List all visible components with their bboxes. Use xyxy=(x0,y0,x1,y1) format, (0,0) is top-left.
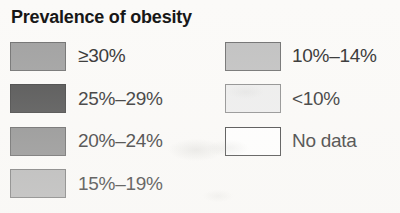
legend-item-label: 15%–19% xyxy=(78,173,163,195)
legend-item: 20%–24% xyxy=(10,126,163,156)
legend-item-label: <10% xyxy=(292,88,340,110)
legend-item: ≥30% xyxy=(10,41,163,71)
legend-item: 15%–19% xyxy=(10,169,163,199)
legend-item-label: 10%–14% xyxy=(292,45,377,67)
color-swatch xyxy=(225,42,281,71)
color-swatch xyxy=(10,169,66,198)
color-swatch xyxy=(225,127,281,156)
legend-title: Prevalence of obesity xyxy=(11,7,192,28)
color-swatch xyxy=(225,84,281,113)
legend-item-label: No data xyxy=(292,130,356,152)
legend-item-label: ≥30% xyxy=(78,45,125,67)
legend-item-label: 25%–29% xyxy=(78,88,163,110)
legend-column-left: ≥30% 25%–29% 20%–24% 15%–19% xyxy=(10,41,163,211)
color-swatch xyxy=(10,42,66,71)
color-swatch xyxy=(10,84,66,113)
legend-item: No data xyxy=(225,126,377,156)
legend-column-right: 10%–14% <10% No data xyxy=(225,41,377,169)
legend-item: 10%–14% xyxy=(225,41,377,71)
map-legend: Prevalence of obesity ≥30% 25%–29% 20%–2… xyxy=(0,0,400,213)
legend-item: <10% xyxy=(225,84,377,114)
color-swatch xyxy=(10,127,66,156)
legend-item-label: 20%–24% xyxy=(78,130,163,152)
legend-item: 25%–29% xyxy=(10,84,163,114)
